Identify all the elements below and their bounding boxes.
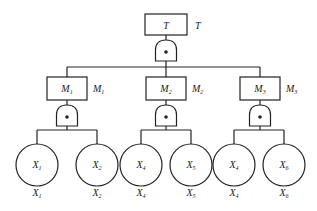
and-gate-m3 [250, 105, 271, 126]
gate-dot-icon [164, 50, 168, 54]
gate-dot-icon [258, 115, 262, 119]
intermediate-event-side-label: M1 [92, 83, 104, 95]
fault-tree-diagram: TTM1M1M2M2M3M3X1X1X2X2X4X4X5X5X4X4X6X6 [0, 0, 317, 211]
gate-dot-icon [164, 115, 168, 119]
and-gate-m2 [156, 105, 177, 126]
nodes: TTM1M1M2M2M3M3X1X1X2X2X4X4X5X5X4X4X6X6 [16, 14, 305, 199]
and-gate-m1 [57, 105, 78, 126]
intermediate-event-side-label: M3 [285, 83, 297, 95]
top-event-side-label: T [195, 20, 202, 31]
basic-event-caption: X1 [31, 187, 41, 199]
basic-event-caption: X4 [135, 187, 145, 199]
basic-event-caption: X4 [228, 187, 238, 199]
basic-event-caption: X2 [91, 187, 101, 199]
top-and-gate [156, 40, 177, 61]
gate-dot-icon [65, 115, 69, 119]
intermediate-event-side-label: M2 [191, 83, 203, 95]
basic-event-caption: X6 [278, 187, 288, 199]
basic-event-caption: X5 [185, 187, 195, 199]
